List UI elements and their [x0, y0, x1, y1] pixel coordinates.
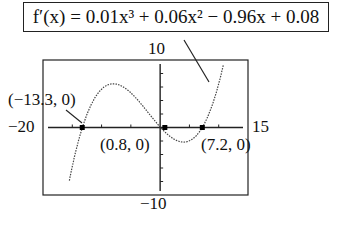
- zero-point-marker: [200, 125, 205, 130]
- ymax-label: 10: [148, 40, 165, 57]
- zero1-pointer-line: [66, 110, 82, 123]
- zero-point-marker: [162, 125, 167, 130]
- xmax-label: 15: [252, 118, 269, 135]
- ymin-label: −10: [140, 195, 167, 210]
- zero-label-2: (0.8, 0): [100, 136, 150, 153]
- zero-label-1: (−13.3, 0): [8, 91, 76, 108]
- zero-point-marker: [80, 125, 85, 130]
- equation-pointer-line: [184, 40, 209, 82]
- function-curve: [69, 65, 223, 181]
- zero-label-3: (7.2, 0): [201, 136, 251, 153]
- xmin-label: −20: [8, 118, 35, 135]
